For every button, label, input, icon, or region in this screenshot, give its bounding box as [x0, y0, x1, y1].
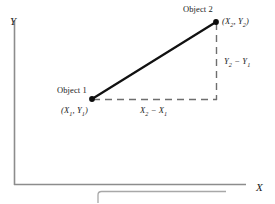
- delta-y-label: Y2 − Y1: [224, 57, 250, 68]
- object-2-name-label: Object 2: [183, 5, 213, 14]
- object-2-point-marker: [213, 19, 219, 25]
- object-1-name-label: Object 1: [57, 86, 87, 95]
- object-1-point-marker: [89, 96, 95, 102]
- object-1-coordinate-label: (X1, Y1): [61, 106, 88, 117]
- diagram-canvas: [0, 0, 275, 203]
- delta-x-label: X2 − X1: [140, 106, 167, 117]
- object-connector-line: [92, 22, 216, 99]
- distance-diagram-figure: Y X Object 2 (X2, Y2) Object 1 (X1, Y1) …: [0, 0, 275, 203]
- caption-box-outline: [98, 192, 226, 204]
- object-2-coordinate-label: (X2, Y2): [222, 17, 249, 28]
- x-axis-label: X: [256, 182, 263, 193]
- y-axis-label: Y: [10, 16, 16, 27]
